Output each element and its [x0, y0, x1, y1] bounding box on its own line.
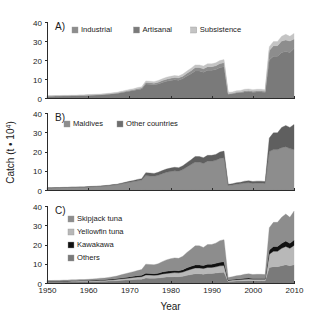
x-tick-label: 1980: [162, 286, 180, 295]
y-tick-label: 40: [33, 19, 42, 28]
legend-swatch: [134, 27, 140, 33]
y-tick-label: 20: [33, 148, 42, 157]
x-axis-title: Year: [160, 301, 181, 312]
legend-label: Industrial: [81, 25, 112, 34]
legend-swatch: [64, 121, 70, 127]
legend-label: Maldives: [73, 119, 103, 128]
x-tick-label: 1990: [203, 286, 221, 295]
legend: Skipjack tunaYellowfin tunaKawakawaOther…: [68, 214, 124, 262]
y-tick-label: 0: [38, 95, 43, 104]
legend-swatch: [68, 242, 74, 248]
legend-label: Kawakawa: [77, 240, 114, 249]
legend-label: Artisanal: [143, 25, 173, 34]
legend-label: Yellowfin tuna: [77, 227, 124, 236]
panel-letter: C): [55, 205, 66, 216]
legend: IndustrialArtisanalSubsistence: [72, 25, 241, 34]
panel-letter: B): [55, 112, 65, 123]
legend: MaldivesOther countries: [64, 119, 178, 128]
legend-swatch: [68, 216, 74, 222]
legend-label: Others: [77, 253, 100, 262]
x-tick-label: 1970: [121, 286, 139, 295]
legend-label: Skipjack tuna: [77, 214, 123, 223]
legend-label: Subsistence: [200, 25, 241, 34]
x-tick-label: 1960: [80, 286, 98, 295]
chart-canvas: 010203040A)IndustrialArtisanalSubsistenc…: [0, 0, 320, 326]
panel-c: 0102030401950196019701980199020002010C)S…: [33, 203, 304, 296]
panel-a: 010203040A)IndustrialArtisanalSubsistenc…: [33, 19, 294, 104]
figure-stacked-area-catch: 010203040A)IndustrialArtisanalSubsistenc…: [0, 0, 320, 326]
legend-swatch: [117, 121, 123, 127]
y-tick-label: 10: [33, 76, 42, 85]
x-tick-label: 2000: [244, 286, 262, 295]
panel-letter: A): [55, 21, 65, 32]
panel-b: 010203040B)MaldivesOther countries: [33, 110, 294, 196]
y-tick-label: 30: [33, 129, 42, 138]
stacked-areas: [47, 125, 294, 190]
y-tick-label: 30: [33, 38, 42, 47]
y-tick-label: 20: [33, 241, 42, 250]
y-axis-title: Catch (t • 104): [5, 121, 16, 183]
legend-swatch: [72, 27, 78, 33]
y-tick-label: 30: [33, 222, 42, 231]
stacked-areas: [47, 33, 294, 98]
y-tick-label: 10: [33, 260, 42, 269]
legend-swatch: [191, 27, 197, 33]
x-tick-label: 2010: [286, 286, 304, 295]
legend-label: Other countries: [126, 119, 178, 128]
y-tick-label: 40: [33, 203, 42, 212]
y-tick-label: 10: [33, 167, 42, 176]
y-tick-label: 20: [33, 57, 42, 66]
x-tick-label: 1950: [39, 286, 57, 295]
y-tick-label: 40: [33, 110, 42, 119]
legend-swatch: [68, 255, 74, 261]
legend-swatch: [68, 229, 74, 235]
y-tick-label: 0: [38, 187, 43, 196]
